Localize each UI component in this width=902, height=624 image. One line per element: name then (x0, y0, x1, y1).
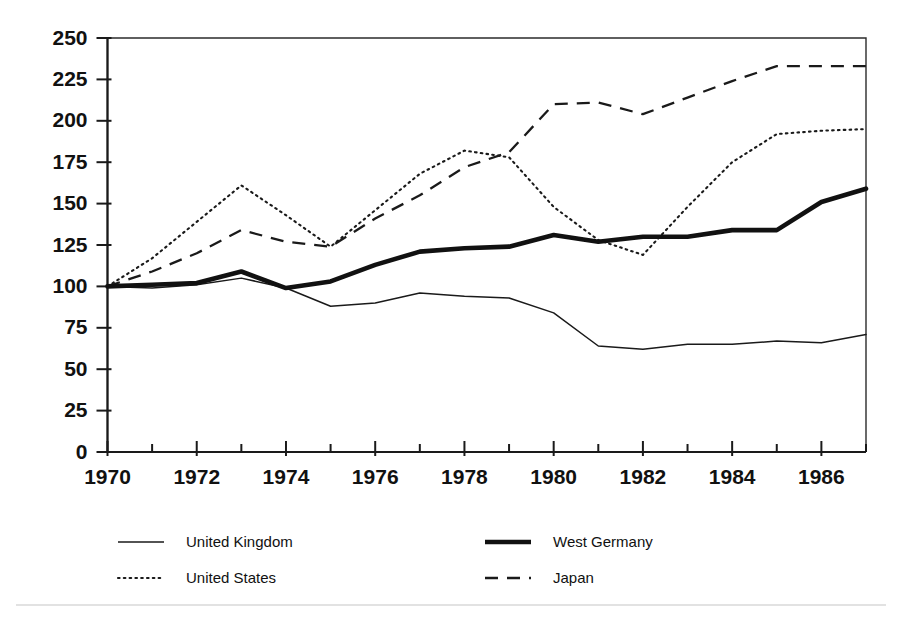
x-tick-label: 1970 (84, 465, 131, 488)
y-tick-label: 200 (52, 108, 87, 131)
y-tick-label: 100 (52, 274, 87, 297)
legend-item-label: United States (186, 569, 276, 586)
x-tick-label: 1986 (798, 465, 845, 488)
y-tick-label: 0 (76, 440, 88, 463)
x-tick-label: 1976 (352, 465, 399, 488)
x-tick-label: 1974 (263, 465, 310, 488)
y-tick-label: 125 (52, 233, 87, 256)
y-tick-label: 150 (52, 191, 87, 214)
y-tick-label: 225 (52, 67, 87, 90)
legend-item-label: United Kingdom (186, 533, 293, 550)
x-axis-labels: 197019721974197619781980198219841986 (84, 465, 845, 488)
y-tick-label: 50 (64, 357, 87, 380)
chart-container: 0255075100125150175200225250 19701972197… (0, 0, 902, 624)
chart-background (0, 0, 902, 624)
line-chart: 0255075100125150175200225250 19701972197… (0, 0, 902, 624)
x-tick-label: 1980 (530, 465, 577, 488)
x-tick-label: 1984 (709, 465, 756, 488)
x-tick-label: 1972 (173, 465, 220, 488)
x-tick-label: 1978 (441, 465, 488, 488)
legend-item-label: West Germany (553, 533, 653, 550)
x-tick-label: 1982 (620, 465, 667, 488)
y-tick-label: 175 (52, 150, 87, 173)
y-tick-label: 250 (52, 26, 87, 49)
y-tick-label: 75 (64, 315, 88, 338)
y-tick-label: 25 (64, 398, 88, 421)
legend-item-label: Japan (553, 569, 594, 586)
